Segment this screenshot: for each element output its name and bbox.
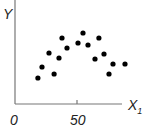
x-axis-label-main: X bbox=[128, 97, 137, 113]
data-point bbox=[46, 50, 51, 55]
data-point bbox=[106, 71, 111, 76]
data-point bbox=[52, 71, 57, 76]
data-point bbox=[85, 42, 90, 47]
data-point bbox=[59, 35, 64, 40]
data-point bbox=[96, 35, 101, 40]
data-point bbox=[101, 51, 106, 56]
data-point bbox=[35, 75, 40, 80]
data-point bbox=[110, 61, 115, 66]
data-point bbox=[39, 64, 44, 69]
data-point bbox=[75, 40, 80, 45]
data-point bbox=[64, 45, 69, 50]
data-point bbox=[122, 61, 127, 66]
data-points bbox=[35, 30, 127, 80]
x-tick-label-50: 50 bbox=[70, 113, 86, 127]
data-point bbox=[80, 30, 85, 35]
y-axis-label: Y bbox=[3, 7, 12, 21]
x-tick-label-0: 0 bbox=[10, 113, 18, 127]
data-point bbox=[56, 55, 61, 60]
data-point bbox=[92, 56, 97, 61]
x-axis-label-sub: 1 bbox=[137, 106, 142, 116]
x-axis-label: X1 bbox=[128, 98, 142, 116]
